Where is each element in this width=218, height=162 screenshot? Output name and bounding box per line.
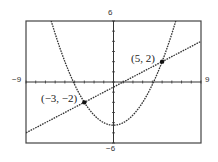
point-label-neg3-neg2: (−3, −2) [41, 93, 77, 104]
coordinate-axes [26, 21, 201, 143]
graph-canvas [0, 0, 218, 162]
y-max-label: 6 [108, 9, 112, 17]
x-min-label: −9 [12, 76, 21, 84]
x-max-label: 9 [205, 76, 209, 84]
point-label-5-2: (5, 2) [131, 53, 155, 64]
y-min-label: −6 [106, 145, 115, 153]
